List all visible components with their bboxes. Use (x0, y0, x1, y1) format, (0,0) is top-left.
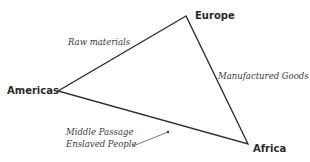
edge-label-enslaved-people: Enslaved People (66, 138, 136, 150)
edge-label-middle-passage: Middle Passage (66, 126, 133, 138)
edge-label-raw-materials: Raw materials (68, 36, 130, 48)
node-americas: Americas (7, 85, 59, 97)
triangular-trade-diagram: Europe Americas Africa Raw materials Man… (0, 0, 310, 162)
edge-label-manufactured-goods: Manufactured Goods (218, 70, 309, 82)
middle-passage-pointer-line (133, 132, 168, 146)
node-africa: Africa (253, 143, 286, 155)
node-europe: Europe (195, 10, 235, 22)
middle-passage-pointer-dot (167, 131, 169, 133)
